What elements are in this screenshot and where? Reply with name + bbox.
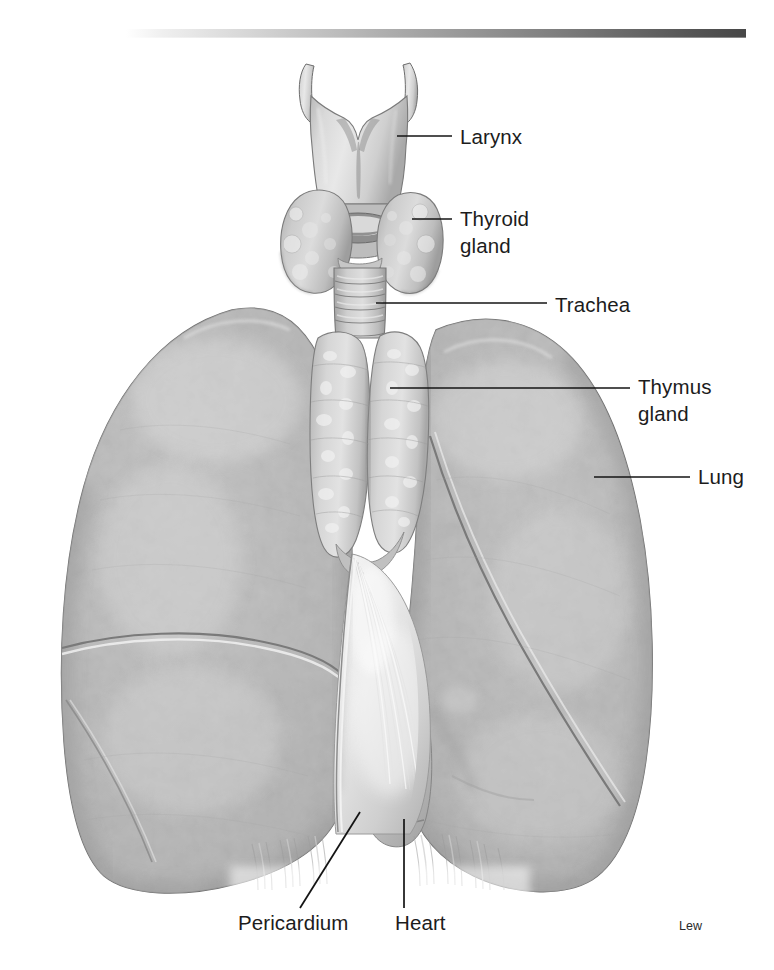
label-lung-text: Lung <box>698 465 744 488</box>
label-pericardium-text: Pericardium <box>238 911 348 934</box>
anatomy-illustration: Larynx Thyroid gland Trachea Thymus glan… <box>0 0 774 970</box>
label-thymus-gland-text-line1: Thymus <box>638 375 712 398</box>
label-trachea: Trachea <box>376 293 631 316</box>
figure-page: Larynx Thyroid gland Trachea Thymus glan… <box>0 0 774 970</box>
label-heart-text: Heart <box>395 911 446 934</box>
label-thymus-gland-text-line2: gland <box>638 402 689 425</box>
artist-signature: Lew <box>679 919 703 933</box>
label-larynx: Larynx <box>397 125 523 148</box>
label-larynx-text: Larynx <box>460 125 523 148</box>
lung-left-structure <box>390 300 680 910</box>
label-thyroid-gland-text-line2: gland <box>460 234 511 257</box>
label-thyroid-gland-text-line1: Thyroid <box>460 207 529 230</box>
label-trachea-text: Trachea <box>555 293 631 316</box>
thymus-gland-structure <box>310 332 429 577</box>
top-gradient-rule <box>126 29 746 40</box>
